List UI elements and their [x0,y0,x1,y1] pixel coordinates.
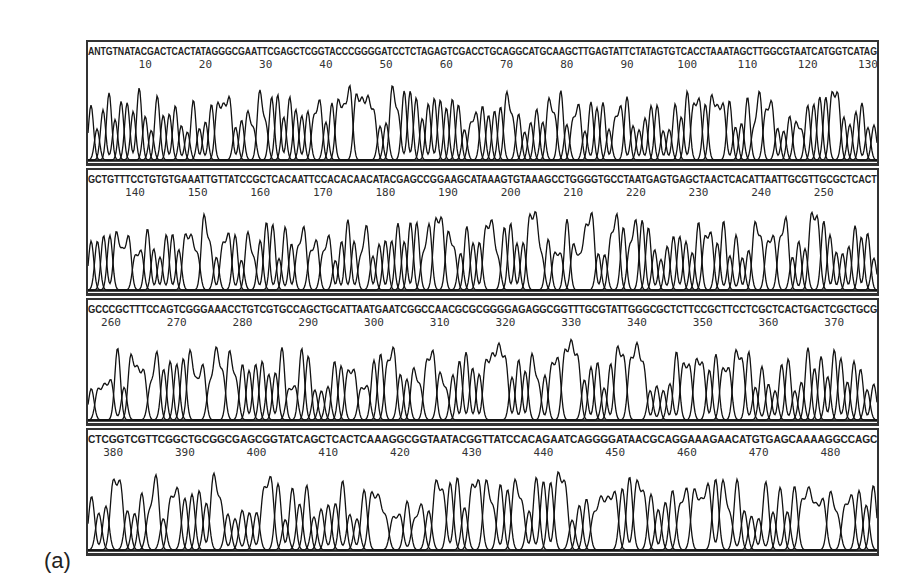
chromatogram-trace [88,195,877,293]
base-sequence: ANTGTNATACGACTCACTATAGGGCGAATTCGAGCTCGGT… [88,45,749,57]
trace-panel-4: CTCGGTCGTTCGGCTGCGGCGAGCGGTATCAGCTCACTCA… [86,428,879,556]
chromatogram-trace [88,455,877,553]
trace-panel-3: GCCCGCTTTCCAGTCGGGAAACCTGTCGTGCCAGCTGCAT… [86,298,879,426]
base-sequence: GCCCGCTTTCCAGTCGGGAAACCTGTCGTGCCAGCTGCAT… [88,303,794,315]
trace-panel-1: ANTGTNATACGACTCACTATAGGGCGAATTCGAGCTCGGT… [86,40,879,166]
figure-panel-label: (a) [44,548,71,574]
chromatogram-trace [88,325,877,423]
trace-panel-2: GCTGTTTCCTGTGTGAAATTGTTATCCGCTCACAATTCCA… [86,168,879,296]
base-sequence: GCTGTTTCCTGTGTGAAATTGTTATCCGCTCACAATTCCA… [88,173,774,185]
chromatogram-trace [88,67,877,163]
base-sequence: CTCGGTCGTTCGGCTGCGGCGAGCGGTATCAGCTCACTCA… [88,433,854,445]
